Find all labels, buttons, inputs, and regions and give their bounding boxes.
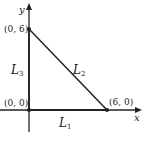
- y-axis-arrow-icon: [26, 3, 32, 10]
- point-label-6-0: (6, 0): [109, 97, 133, 107]
- segment-L2: [29, 29, 107, 110]
- y-axis-label: y: [18, 4, 25, 15]
- coordinate-diagram: y x (0, 6) (0, 0) (6, 0) L3 L2 L1: [0, 0, 152, 145]
- point-0-0: [27, 108, 31, 112]
- point-label-0-6: (0, 6): [4, 24, 28, 34]
- segment-label-L3: L3: [10, 63, 23, 78]
- segment-label-L1: L1: [58, 116, 71, 131]
- point-6-0: [105, 108, 109, 112]
- point-label-0-0: (0, 0): [4, 98, 28, 108]
- x-axis-label: x: [134, 112, 140, 123]
- segment-label-L2: L2: [72, 63, 85, 78]
